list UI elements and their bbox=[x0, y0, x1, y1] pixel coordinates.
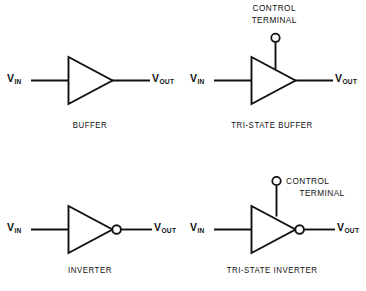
inverter-input-label-sub: IN bbox=[14, 227, 21, 234]
inverter-output-label-sub: OUT bbox=[161, 227, 176, 234]
tri-state-buffer-output-label-sub: OUT bbox=[342, 78, 357, 85]
tri-state-inverter-bubble-icon bbox=[295, 225, 304, 234]
tri-state-inverter-input-label-sub: IN bbox=[197, 227, 204, 234]
tri-state-buffer-input-label-sub: IN bbox=[197, 78, 204, 85]
tri-state-buffer-control-label-line2: TERMINAL bbox=[232, 15, 316, 27]
tri-state-inverter-control-terminal-icon bbox=[272, 177, 280, 185]
tri-state-buffer-caption: TRI-STATE BUFFER bbox=[219, 122, 325, 130]
inverter-triangle-icon bbox=[69, 206, 113, 253]
circuit-diagram-canvas bbox=[0, 0, 366, 291]
inverter-input-label: VIN bbox=[7, 222, 21, 233]
tri-state-inverter-caption: TRI-STATE INVERTER bbox=[210, 267, 335, 275]
logic-gate-symbols-figure: VIN VOUT BUFFER VIN VOUT CONTROL TERMINA… bbox=[0, 0, 366, 291]
tri-state-inverter-input-label: VIN bbox=[190, 222, 204, 233]
tri-state-inverter-output-label: VOUT bbox=[337, 222, 359, 233]
buffer-gate-group bbox=[31, 57, 150, 104]
buffer-triangle-icon bbox=[69, 57, 113, 104]
tri-state-inverter-output-label-sub: OUT bbox=[344, 227, 359, 234]
tri-state-buffer-control-label-line1: CONTROL bbox=[232, 3, 316, 15]
buffer-input-label-sub: IN bbox=[14, 78, 21, 85]
inverter-caption: INVERTER bbox=[42, 267, 138, 275]
tri-state-buffer-input-label: VIN bbox=[190, 73, 204, 84]
buffer-output-label-sub: OUT bbox=[159, 78, 174, 85]
tri-state-buffer-output-label: VOUT bbox=[335, 73, 357, 84]
tri-state-buffer-triangle-icon bbox=[252, 57, 296, 104]
tri-state-buffer-gate-group bbox=[214, 34, 333, 104]
inverter-bubble-icon bbox=[112, 225, 121, 234]
tri-state-inverter-control-label-line1: CONTROL bbox=[286, 176, 345, 188]
buffer-caption: BUFFER bbox=[42, 122, 138, 130]
inverter-output-label: VOUT bbox=[154, 222, 176, 233]
tri-state-inverter-control-label: CONTROL TERMINAL bbox=[286, 176, 345, 199]
tri-state-buffer-control-label: CONTROL TERMINAL bbox=[232, 3, 316, 26]
buffer-output-label: VOUT bbox=[152, 73, 174, 84]
inverter-gate-group bbox=[31, 206, 152, 253]
tri-state-buffer-control-terminal-icon bbox=[271, 34, 279, 42]
tri-state-inverter-control-label-line2: TERMINAL bbox=[299, 188, 344, 200]
tri-state-inverter-triangle-icon bbox=[252, 206, 296, 253]
buffer-input-label: VIN bbox=[7, 73, 21, 84]
